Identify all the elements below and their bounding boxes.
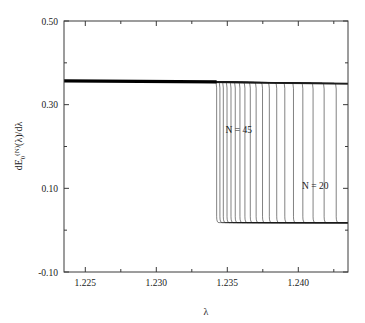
x-tick-label: 1.235 xyxy=(217,278,239,288)
y-tick-label: 0.30 xyxy=(41,100,58,110)
data-curve xyxy=(64,81,348,223)
x-axis-title: λ xyxy=(204,306,209,317)
y-tick-label: 0.50 xyxy=(41,17,58,27)
axes-frame-layer xyxy=(64,21,348,272)
data-curve xyxy=(64,81,348,223)
x-tick-label: 1.230 xyxy=(146,278,168,288)
data-curve xyxy=(64,81,348,223)
y-axis-title: dE0(N)(λ)/dλ xyxy=(13,122,27,171)
data-curve xyxy=(64,81,348,223)
data-curve xyxy=(64,81,348,223)
data-curve xyxy=(64,81,348,223)
data-curve xyxy=(64,81,348,223)
data-curve xyxy=(64,81,348,223)
chart-canvas: 1.2251.2301.2351.240 -0.100.100.300.50 N… xyxy=(0,0,365,323)
data-curve xyxy=(64,81,348,223)
data-curve xyxy=(64,81,348,223)
data-curve xyxy=(64,81,348,223)
x-tick-labels: 1.2251.2301.2351.240 xyxy=(75,278,310,288)
data-curve xyxy=(64,81,348,223)
curve-annotation: N = 20 xyxy=(302,181,329,191)
figure-container: 1.2251.2301.2351.240 -0.100.100.300.50 N… xyxy=(0,0,365,323)
data-curve xyxy=(64,81,348,223)
data-curve xyxy=(64,81,348,223)
tick-layer xyxy=(64,21,348,272)
curve-annotation: N = 45 xyxy=(225,125,252,135)
y-tick-labels: -0.100.100.300.50 xyxy=(38,17,58,278)
upper-branch-band xyxy=(64,81,217,82)
x-tick-label: 1.240 xyxy=(288,278,310,288)
plot-frame xyxy=(64,21,348,272)
data-curve xyxy=(64,81,348,223)
curve-layer xyxy=(64,81,348,223)
data-curve xyxy=(64,81,348,223)
data-curve xyxy=(64,81,348,223)
data-curve xyxy=(64,81,348,223)
x-tick-label: 1.225 xyxy=(75,278,97,288)
y-tick-label: 0.10 xyxy=(41,184,58,194)
data-curve xyxy=(64,81,348,223)
y-tick-label: -0.10 xyxy=(38,268,58,278)
